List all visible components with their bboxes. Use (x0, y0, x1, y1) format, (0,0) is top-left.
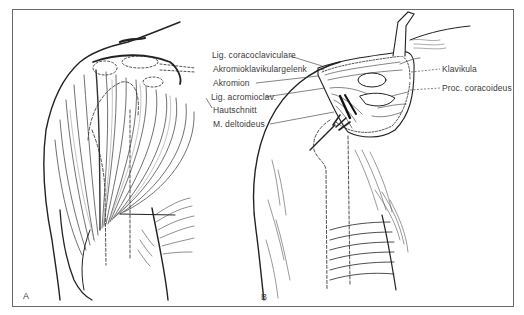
label-akromioklavikulargelenk: Akromioklavikulargelenk (213, 64, 307, 74)
label-proc-coracoideus: Proc. coracoideus (442, 83, 512, 93)
label-lig-acromioclav: Lig. acromioclav. (211, 92, 276, 102)
label-akromion: Akromion (213, 78, 250, 88)
panel-label-a: A (23, 291, 29, 301)
label-hautschnitt: Hautschnitt (213, 105, 257, 115)
label-lig-coracoclaviculare: Lig. coracoclaviculare (212, 50, 296, 60)
label-klavikula: Klavikula (442, 64, 477, 74)
anatomical-illustration (0, 0, 524, 315)
label-m-deltoideus: M. deltoideus (213, 119, 265, 129)
panel-a-drawing (44, 22, 195, 300)
panel-label-b: B (261, 292, 267, 302)
